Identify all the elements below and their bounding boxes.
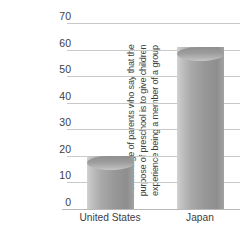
y-tick-label-20: 20 bbox=[55, 144, 71, 155]
y-tick-label-30: 30 bbox=[55, 117, 71, 128]
bar-united-states bbox=[87, 156, 134, 209]
plot-area: 010203040506070 United StatesJapan bbox=[48, 0, 250, 241]
y-tick-label-60: 60 bbox=[55, 38, 71, 49]
y-tick-label-70: 70 bbox=[55, 11, 71, 22]
bar-top-ellipse bbox=[87, 156, 134, 170]
axis-baseline bbox=[62, 209, 240, 210]
y-tick-label-50: 50 bbox=[55, 64, 71, 75]
x-tick-label-japan: Japan bbox=[150, 213, 250, 223]
y-axis-title: Percentage of parents who say that the p… bbox=[0, 0, 45, 241]
y-tick-label-0: 0 bbox=[55, 197, 71, 208]
bar-chart: Percentage of parents who say that the p… bbox=[0, 0, 250, 241]
bar-top-ellipse bbox=[177, 47, 224, 61]
y-tick-label-40: 40 bbox=[55, 91, 71, 102]
x-tick-label-united-states: United States bbox=[60, 213, 160, 223]
bar-japan bbox=[177, 47, 224, 209]
gridline-70 bbox=[67, 23, 240, 24]
y-tick-label-10: 10 bbox=[55, 170, 71, 181]
